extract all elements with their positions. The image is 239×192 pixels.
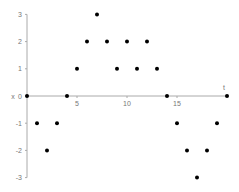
data-point xyxy=(105,40,109,44)
y-axis-label: x xyxy=(11,93,15,100)
y-tick-label: -1 xyxy=(16,120,22,127)
x-axis-label: t xyxy=(223,84,225,91)
x-tick-label: 15 xyxy=(173,100,181,107)
data-point xyxy=(155,67,159,71)
data-point xyxy=(125,40,129,44)
data-point xyxy=(45,148,49,152)
data-point xyxy=(195,176,199,180)
data-point xyxy=(35,121,39,125)
data-point xyxy=(75,67,79,71)
data-point xyxy=(145,40,149,44)
data-point xyxy=(55,121,59,125)
data-point xyxy=(215,121,219,125)
data-point xyxy=(95,12,99,16)
y-tick-label: 1 xyxy=(18,65,22,72)
scatter-plot: -3-2-1012351015xt xyxy=(0,0,239,192)
data-point xyxy=(115,67,119,71)
y-tick-label: -3 xyxy=(16,174,22,181)
data-point xyxy=(185,148,189,152)
x-tick-label: 5 xyxy=(75,100,79,107)
data-point xyxy=(205,148,209,152)
data-point xyxy=(25,94,29,98)
x-tick-label: 10 xyxy=(123,100,131,107)
data-point xyxy=(165,94,169,98)
y-tick-label: 2 xyxy=(18,38,22,45)
data-point xyxy=(65,94,69,98)
data-point xyxy=(85,40,89,44)
data-point xyxy=(175,121,179,125)
y-tick-label: 3 xyxy=(18,11,22,18)
y-tick-label: -2 xyxy=(16,147,22,154)
data-point xyxy=(225,94,229,98)
data-point xyxy=(135,67,139,71)
y-tick-label: 0 xyxy=(18,93,22,100)
